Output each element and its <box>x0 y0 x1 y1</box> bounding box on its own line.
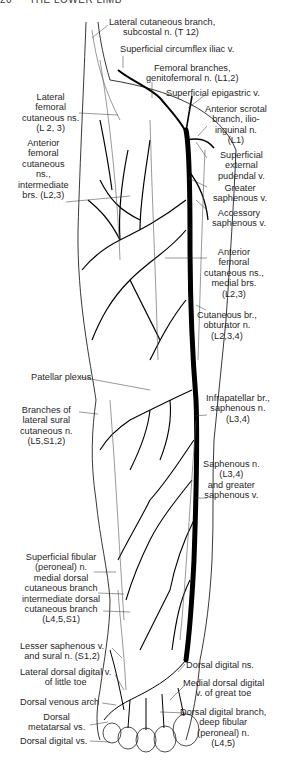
label-line: lateral sural <box>20 415 73 425</box>
label-line: medial brs. <box>204 278 264 288</box>
label-line: Saphenous n. <box>203 459 260 469</box>
label-line: Lesser saphenous v. <box>20 641 104 651</box>
label-line: Dorsal <box>28 712 85 722</box>
label-line: Dorsal digital branch, <box>180 707 266 717</box>
label-line: and greater <box>203 480 260 490</box>
label-line: Dorsal venous arch <box>20 697 99 707</box>
label-line: (L2,3,4) <box>197 331 257 341</box>
label-line: saphenous v. <box>212 218 266 228</box>
label-lateral-dorsal-digital-vein: Lateral dorsal digital v. of little toe <box>20 667 111 688</box>
label-line: (L4,5) <box>180 738 266 748</box>
label-line: Greater <box>213 183 267 193</box>
superficial-epigastric-vein <box>186 96 192 132</box>
label-line: branch, ilio- <box>205 114 267 124</box>
label-line: Lateral <box>22 92 79 102</box>
label-line: Superficial <box>218 150 265 160</box>
label-line: Branches of <box>20 405 73 415</box>
label-superficial-fibular-nerve: Superficial fibular (peroneal) n. medial… <box>22 552 100 625</box>
label-line: Dorsal digital vs. <box>20 736 87 746</box>
label-line: femoral <box>22 102 79 112</box>
greater-saphenous-vein <box>186 130 197 660</box>
thigh-venous-network <box>82 120 186 360</box>
label-line: v. of great toe <box>183 688 264 698</box>
label-line: intermediate dorsal <box>22 594 100 604</box>
label-line: Accessory <box>212 208 266 218</box>
label-line: (peroneal) n. <box>22 562 100 572</box>
label-line: (peroneal) n. <box>180 728 266 738</box>
label-line: saphenous v. <box>203 490 260 500</box>
label-line: metatarsal vs. <box>28 722 85 732</box>
label-line: Cutaneous br., <box>197 310 257 320</box>
label-infrapatellar-branch: Infrapatellar br., saphenous n. (L3,4) <box>206 393 270 424</box>
label-line: Patellar plexus <box>31 372 91 382</box>
label-line: Anterior <box>204 247 264 257</box>
label-line: (L3,4) <box>206 414 270 424</box>
label-line: Dorsal digital ns. <box>186 660 254 670</box>
label-line: Femoral branches, <box>146 63 238 73</box>
label-line: Superficial fibular <box>22 552 100 562</box>
label-line: intermediate <box>18 180 69 190</box>
label-line: genitofemoral n. (L1,2) <box>146 73 238 83</box>
label-line: saphenous n. <box>206 403 270 413</box>
label-line: medial dorsal <box>22 573 100 583</box>
label-line: cutaneous branch <box>22 583 100 593</box>
label-line: and sural n. (S1,2) <box>20 651 104 661</box>
label-line: obturator n. <box>197 320 257 330</box>
label-anterior-scrotal-branch: Anterior scrotal branch, ilio- inguinal … <box>205 104 267 146</box>
label-line: of little toe <box>20 677 111 687</box>
label-anterior-femoral-cutaneous-intermediate: Anterior femoral cutaneous ns., intermed… <box>18 138 69 200</box>
label-line: cutaneous n. <box>20 426 73 436</box>
label-line: (L4,5,S1) <box>22 614 100 624</box>
label-line: Infrapatellar br., <box>206 393 270 403</box>
label-line: external <box>218 160 265 170</box>
label-line: femoral <box>18 148 69 158</box>
label-line: cutaneous ns., <box>204 268 264 278</box>
label-line: pudendal v. <box>218 171 265 181</box>
label-line: (L3,4) <box>203 469 260 479</box>
label-line: inguinal n. <box>205 125 267 135</box>
label-line: Lateral cutaneous branch, <box>109 17 215 27</box>
label-greater-saphenous-vein: Greater saphenous v. <box>213 183 267 204</box>
label-line: Medial dorsal digital <box>183 678 264 688</box>
label-dorsal-metatarsal-veins: Dorsal metatarsal vs. <box>28 712 85 733</box>
leg-venous-network <box>100 390 194 650</box>
label-accessory-saphenous-vein: Accessory saphenous v. <box>212 208 266 229</box>
label-line: (L2,3) <box>204 289 264 299</box>
label-lesser-saphenous-vein: Lesser saphenous v. and sural n. (S1,2) <box>20 641 104 662</box>
label-lateral-femoral-cutaneous: Lateral femoral cutaneous ns. (L 2, 3) <box>22 92 79 134</box>
label-line: deep fibular <box>180 717 266 727</box>
label-line: Anterior scrotal <box>205 104 267 114</box>
foot-venous-network <box>104 650 186 730</box>
label-line: cutaneous branch <box>22 604 100 614</box>
label-line: Superficial epigastric v. <box>166 88 260 98</box>
label-line: (L 2, 3) <box>22 123 79 133</box>
label-line: cutaneous ns. <box>22 113 79 123</box>
label-superficial-epigastric-vein: Superficial epigastric v. <box>166 88 260 98</box>
label-line: ns., <box>18 169 69 179</box>
label-dorsal-digital-nerves: Dorsal digital ns. <box>186 660 254 670</box>
label-line: Superficial circumflex iliac v. <box>120 44 234 54</box>
label-line: cutaneous <box>18 159 69 169</box>
label-line: Lateral dorsal digital v. <box>20 667 111 677</box>
label-dorsal-digital-branch-deep-fibular: Dorsal digital branch, deep fibular (per… <box>180 707 266 749</box>
label-lateral-cutaneous-branch-subcostal: Lateral cutaneous branch, subcostal n. (… <box>109 17 215 38</box>
label-branches-lateral-sural: Branches of lateral sural cutaneous n. (… <box>20 405 73 447</box>
label-superficial-external-pudendal-vein: Superficial external pudendal v. <box>218 150 265 181</box>
label-cutaneous-branch-obturator: Cutaneous br., obturator n. (L2,3,4) <box>197 310 257 341</box>
label-line: (L1) <box>205 135 267 145</box>
label-patellar-plexus: Patellar plexus <box>31 372 91 382</box>
label-line: subcostal n. (T 12) <box>109 27 215 37</box>
label-line: Anterior <box>18 138 69 148</box>
label-line: (L5,S1,2) <box>20 436 73 446</box>
label-femoral-branches-genitofemoral: Femoral branches, genitofemoral n. (L1,2… <box>146 63 238 84</box>
label-dorsal-digital-veins: Dorsal digital vs. <box>20 736 87 746</box>
label-dorsal-venous-arch: Dorsal venous arch <box>20 697 99 707</box>
label-line: brs. (L2,3) <box>18 190 69 200</box>
label-line: saphenous v. <box>213 193 267 203</box>
label-saphenous-nerve: Saphenous n. (L3,4) and greater saphenou… <box>203 459 260 501</box>
label-anterior-femoral-cutaneous-medial: Anterior femoral cutaneous ns., medial b… <box>204 247 264 299</box>
label-medial-dorsal-digital-vein: Medial dorsal digital v. of great toe <box>183 678 264 699</box>
label-line: femoral <box>204 257 264 267</box>
label-superficial-circumflex-iliac-vein: Superficial circumflex iliac v. <box>120 44 234 54</box>
